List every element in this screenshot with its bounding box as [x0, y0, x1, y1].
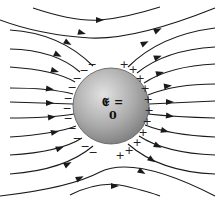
arrowhead-icon [77, 29, 86, 37]
positive-charge-icon: + [132, 136, 141, 149]
arrowhead-icon [111, 183, 119, 189]
field-line [10, 30, 93, 66]
arrowhead-icon [140, 39, 150, 48]
field-line [144, 64, 215, 83]
field-line [10, 138, 82, 155]
field-line [148, 114, 215, 118]
arrowhead-icon [55, 144, 65, 152]
positive-charge-icon: + [124, 144, 133, 157]
arrowhead-icon [46, 100, 54, 106]
arrowhead-icon [50, 128, 59, 136]
field-line [10, 67, 75, 82]
arrowhead-icon [96, 17, 104, 23]
field-line [10, 49, 80, 72]
arrowhead-icon [147, 155, 157, 165]
arrowhead-icon [48, 114, 57, 121]
electric-field-diagram: −−−−−−−−−−−+++++++++++ 𝕰 = 0 [0, 0, 222, 203]
field-line [0, 8, 215, 38]
arrowhead-icon [166, 113, 175, 120]
negative-charge-icon: − [88, 146, 97, 159]
field-line [145, 125, 215, 137]
field-line [148, 84, 215, 95]
arrowhead-icon [46, 85, 55, 92]
positive-charge-icon: + [115, 149, 124, 162]
sphere-field-label: 𝕰 = 0 [96, 96, 130, 122]
field-line [128, 28, 215, 67]
positive-charge-icon: + [119, 58, 128, 71]
arrowhead-icon [166, 99, 174, 105]
negative-charge-icon: − [87, 58, 96, 71]
field-line [10, 126, 76, 137]
field-line [149, 101, 215, 104]
field-line [139, 136, 215, 155]
arrowhead-icon [160, 127, 169, 135]
